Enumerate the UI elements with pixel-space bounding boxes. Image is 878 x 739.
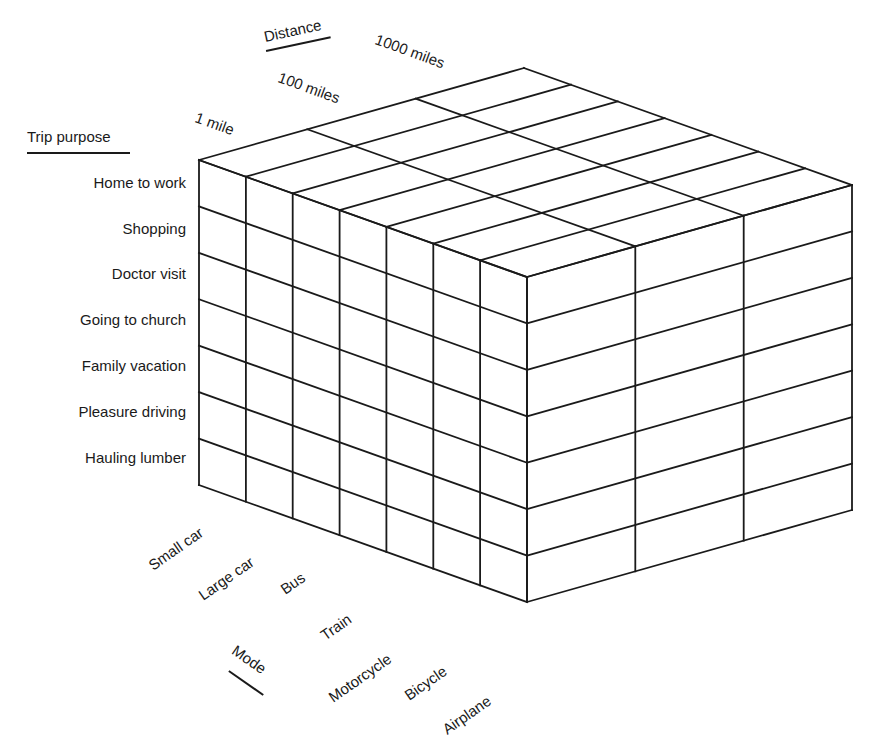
purpose-label: Home to work	[93, 174, 186, 191]
purpose-label: Going to church	[80, 311, 186, 328]
purpose-title-underline	[27, 152, 130, 154]
purpose-label: Doctor visit	[112, 265, 186, 282]
purpose-axis-title: Trip purpose	[27, 128, 111, 145]
purpose-label: Family vacation	[82, 357, 186, 374]
purpose-label: Pleasure driving	[78, 403, 186, 420]
purpose-label: Shopping	[123, 220, 186, 237]
purpose-label: Hauling lumber	[85, 449, 186, 466]
